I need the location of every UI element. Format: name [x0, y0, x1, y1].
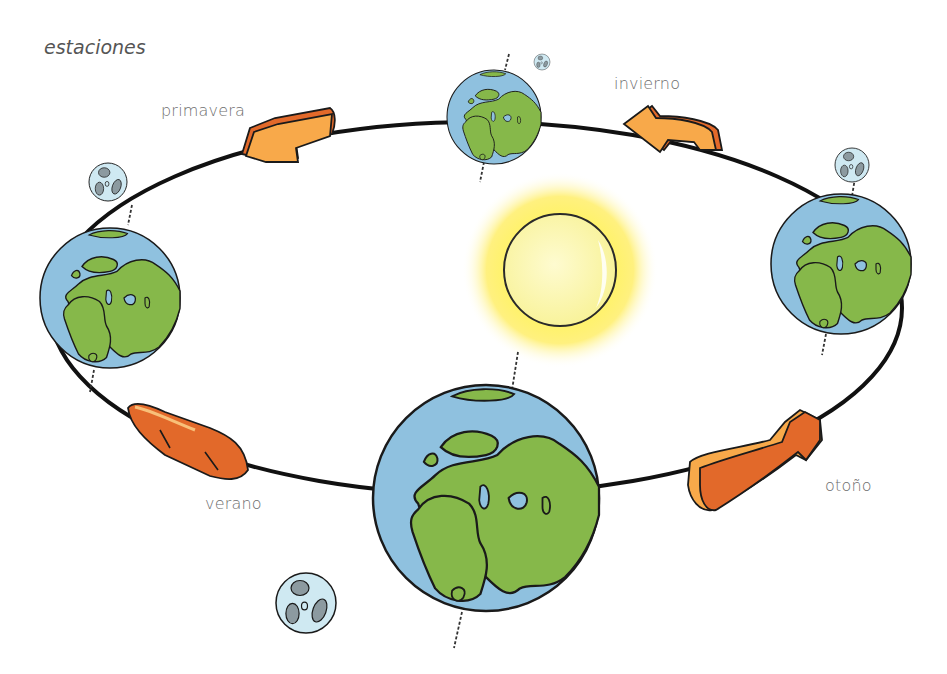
earth-right [771, 194, 911, 334]
sun [462, 172, 658, 368]
season-label-verano: verano [205, 494, 262, 513]
arrow-primavera-icon [242, 108, 335, 162]
earth-top [447, 70, 541, 164]
moon-bottom [276, 573, 336, 633]
season-label-otono: otoño [825, 476, 872, 495]
season-label-primavera: primavera [161, 101, 245, 120]
sun-core [504, 214, 616, 326]
diagram-title: estaciones [44, 36, 146, 58]
moon-left [89, 163, 127, 201]
arrow-verano-icon [128, 404, 248, 479]
moon-top [534, 54, 550, 70]
arrow-otono-icon [688, 410, 822, 510]
diagram-canvas [0, 0, 947, 674]
moon-right [835, 148, 869, 182]
season-label-invierno: invierno [614, 74, 680, 93]
earth-left [40, 228, 180, 368]
seasons-diagram: estaciones primavera invierno verano oto… [0, 0, 947, 674]
earth-bottom [373, 385, 599, 611]
